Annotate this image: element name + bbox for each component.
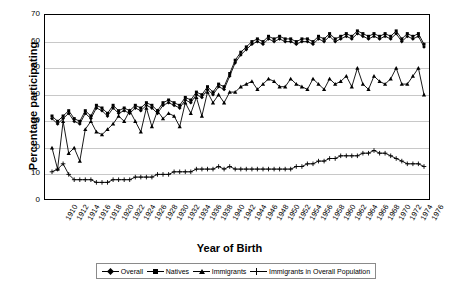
chart-legend: OverallNativesImmigrantsImmigrants in Ov… xyxy=(96,263,376,279)
y-tick-label: 20 xyxy=(18,143,40,151)
y-tick-label: 30 xyxy=(18,116,40,124)
y-tick-label: 40 xyxy=(18,90,40,98)
y-axis-ticks: 010203040506070 xyxy=(14,14,40,200)
legend-item: Natives xyxy=(147,268,189,275)
y-tick-label: 50 xyxy=(18,63,40,71)
plot-area xyxy=(44,14,430,200)
y-tick-label: 60 xyxy=(18,37,40,45)
x-axis-title: Year of Birth xyxy=(0,242,459,254)
y-tick-label: 0 xyxy=(18,196,40,204)
legend-item: Overall xyxy=(102,268,143,275)
plot-wrapper xyxy=(44,14,430,200)
chart-container: Percentage participating 010203040506070… xyxy=(0,0,459,288)
square-marker-icon xyxy=(147,268,164,275)
legend-item: Immigrants xyxy=(193,268,247,275)
series-layer xyxy=(45,15,431,201)
triangle-marker-icon xyxy=(193,268,210,275)
legend-item-label: Natives xyxy=(166,268,189,275)
cross-marker-icon xyxy=(250,268,267,275)
legend-item: Immigrants in Overall Population xyxy=(250,268,370,275)
y-tick-label: 70 xyxy=(18,10,40,18)
legend-item-label: Immigrants xyxy=(212,268,247,275)
legend-item-label: Immigrants in Overall Population xyxy=(269,268,370,275)
y-tick-label: 10 xyxy=(18,169,40,177)
legend-item-label: Overall xyxy=(121,268,143,275)
diamond-marker-icon xyxy=(102,268,119,275)
